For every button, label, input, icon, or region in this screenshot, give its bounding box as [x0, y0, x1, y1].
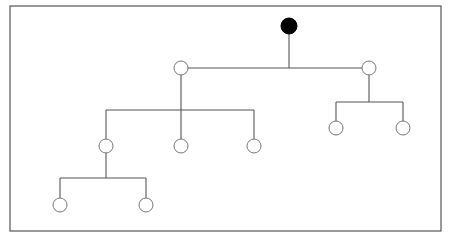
tree-node [139, 198, 153, 212]
tree-node [53, 198, 67, 212]
tree-nodes [53, 18, 410, 212]
tree-node [99, 139, 113, 153]
tree-edges [60, 26, 403, 205]
tree-node [396, 121, 410, 135]
tree-node [174, 139, 188, 153]
tree-node [362, 61, 376, 75]
tree-node [247, 139, 261, 153]
diagram-border [10, 6, 441, 231]
root-node [281, 18, 297, 34]
tree-diagram [0, 0, 449, 240]
cropped-caption-fragment [0, 235, 140, 240]
tree-node [174, 61, 188, 75]
tree-node [329, 121, 343, 135]
